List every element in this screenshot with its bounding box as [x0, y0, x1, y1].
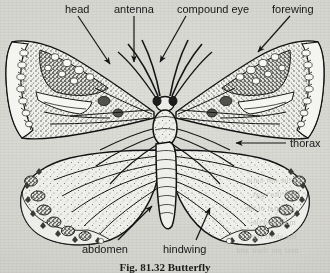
abdomen-segment — [156, 142, 176, 229]
left-forewing — [6, 41, 154, 139]
label-compound-eye: compound eye — [177, 3, 249, 15]
figure-caption: Fig. 81.32 Butterfly — [0, 261, 330, 273]
thorax-segment — [153, 110, 177, 146]
label-hindwing: hindwing — [163, 243, 206, 255]
compound-eye-left — [153, 96, 161, 105]
right-forewing — [176, 41, 324, 139]
label-antenna: antenna — [114, 3, 154, 15]
compound-eye-right — [169, 96, 177, 105]
right-hindwing — [172, 150, 309, 245]
leader-head — [78, 16, 110, 64]
label-forewing: forewing — [272, 3, 314, 15]
label-thorax: thorax — [290, 137, 321, 149]
label-head: head — [65, 3, 89, 15]
label-abdomen: abdomen — [82, 243, 128, 255]
butterfly-diagram — [0, 0, 330, 273]
antennae — [118, 40, 212, 98]
left-hindwing — [21, 150, 158, 245]
butterfly-body — [153, 96, 177, 228]
